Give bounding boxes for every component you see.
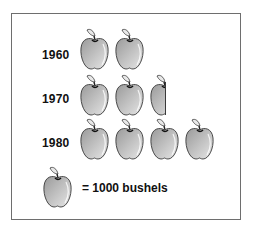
apple-icon <box>114 72 145 117</box>
half-apple-icon <box>149 72 180 117</box>
legend-text: = 1000 bushels <box>82 181 168 195</box>
apple-icon <box>114 116 145 161</box>
apple-icon <box>79 116 110 161</box>
apple-icon <box>79 72 110 117</box>
apple-icon <box>114 26 145 71</box>
apple-icon <box>184 116 215 161</box>
legend-apple-icon <box>42 164 73 209</box>
apple-icon <box>149 116 180 161</box>
year-label-1980: 1980 <box>42 136 70 150</box>
year-label-1960: 1960 <box>42 48 70 62</box>
apple-icon <box>79 26 110 71</box>
year-label-1970: 1970 <box>42 92 70 106</box>
